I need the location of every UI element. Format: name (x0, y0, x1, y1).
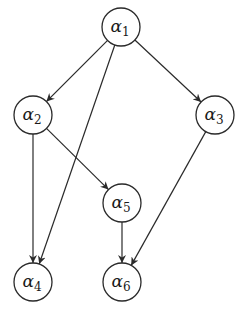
node-a1: α1 (102, 8, 140, 46)
edge-a1-to-a4 (39, 45, 115, 264)
node-a6: α6 (103, 263, 141, 301)
edge-a1-to-a3 (135, 40, 201, 102)
graph-svg: α1α2α3α4α5α6 (0, 0, 244, 321)
edges-layer (33, 40, 206, 265)
dag-diagram: α1α2α3α4α5α6 (0, 0, 244, 321)
node-a4: α4 (14, 263, 52, 301)
edge-a3-to-a6 (131, 132, 206, 266)
node-a5: α5 (103, 184, 141, 222)
nodes-layer: α1α2α3α4α5α6 (14, 8, 234, 301)
node-a2: α2 (14, 96, 52, 134)
edge-a2-to-a5 (47, 128, 109, 189)
node-a3: α3 (196, 96, 234, 134)
